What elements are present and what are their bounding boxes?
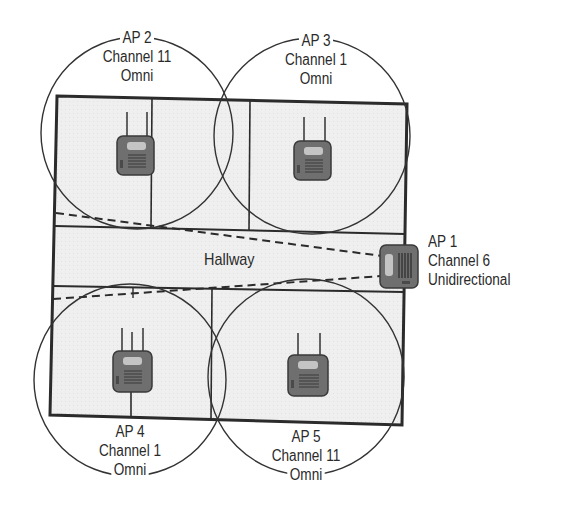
ap5-channel: Channel 11 [247,446,366,465]
ap4-channel: Channel 1 [71,441,190,460]
ap4-label: AP 4 Channel 1 Omni [71,422,190,479]
ap3-label: AP 3 Channel 1 Omni [257,31,376,88]
ap2-name: AP 2 [120,28,154,47]
ap1-name: AP 1 [428,232,510,251]
ap1-label: AP 1 Channel 6 Unidirectional [428,232,510,289]
ap3-name: AP 3 [299,31,333,50]
ap5-label: AP 5 Channel 11 Omni [247,427,366,484]
ap5-antenna: Omni [287,465,325,484]
ap1-channel: Channel 6 [428,251,510,270]
ap5-name: AP 5 [247,427,366,446]
ap3-antenna: Omni [257,69,376,88]
ap3-channel: Channel 1 [257,50,376,69]
ap1-device-icon [380,245,418,288]
ap2-label: AP 2 Channel 11 Omni [78,28,197,85]
ap1-antenna: Unidirectional [428,270,510,289]
ap4-antenna: Omni [111,460,149,479]
ap4-name: AP 4 [71,422,190,441]
ap2-antenna: Omni [78,66,197,85]
ap2-channel: Channel 11 [78,47,197,66]
hallway-label: Hallway [204,250,255,270]
